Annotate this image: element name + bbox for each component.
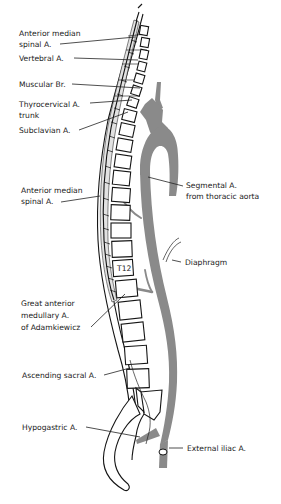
label-adamkiewicz-2: medullary A.	[21, 311, 69, 320]
label-vertebral-artery: Vertebral A.	[19, 54, 64, 63]
label-adamkiewicz-1: Great anterior	[21, 299, 76, 308]
label-segmental-artery-2: from thoracic aorta	[186, 192, 259, 201]
vertebra-t12-label: T12	[116, 264, 131, 273]
label-ascending-sacral-artery: Ascending sacral A.	[22, 371, 96, 380]
label-subclavian-artery: Subclavian A.	[19, 126, 70, 135]
label-adamkiewicz-3: of Adamkiewicz	[21, 323, 80, 332]
external-iliac-opening	[159, 449, 167, 455]
label-hypogastric-artery: Hypogastric A.	[22, 423, 77, 432]
label-muscular-branch: Muscular Br.	[19, 80, 66, 89]
label-anterior-median-spinal-lower-1: Anterior median	[21, 186, 83, 195]
label-diaphragm: Diaphragm	[185, 258, 227, 267]
adamkiewicz-feeder-vessel-2	[145, 270, 152, 292]
label-anterior-median-spinal-upper-2: spinal A.	[19, 40, 51, 49]
label-thyrocervical-2: trunk	[19, 111, 40, 120]
label-segmental-artery-1: Segmental A.	[186, 181, 237, 190]
label-anterior-median-spinal-upper-1: Anterior median	[19, 29, 81, 38]
diaphragm-lines	[163, 238, 181, 262]
label-thyrocervical-1: Thyrocervical A.	[18, 100, 80, 109]
spinal-cord-blood-supply-diagram: T12	[0, 0, 281, 504]
label-anterior-median-spinal-lower-2: spinal A.	[21, 197, 53, 206]
label-external-iliac-artery: External iliac A.	[187, 444, 246, 453]
